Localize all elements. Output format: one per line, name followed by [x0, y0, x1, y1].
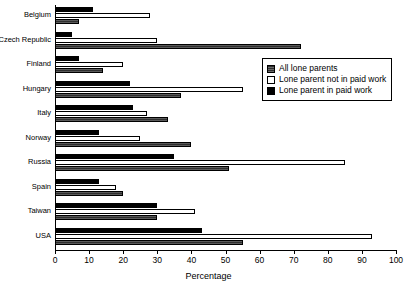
- bar-all: [55, 117, 168, 122]
- bar-inwork: [55, 56, 79, 61]
- bar-row: [55, 44, 396, 49]
- bar-group: Russia: [55, 152, 396, 177]
- y-axis-label: Norway: [26, 134, 51, 142]
- bar-row: [55, 136, 396, 141]
- x-axis-title: Percentage: [0, 271, 417, 281]
- bar-row: [55, 228, 396, 233]
- bar-row: [55, 234, 396, 239]
- bar-row: [55, 130, 396, 135]
- x-tick: [294, 250, 295, 254]
- legend-item-inwork: Lone parent in paid work: [267, 85, 386, 96]
- x-tick: [396, 250, 397, 254]
- y-axis-label: Finland: [26, 60, 51, 68]
- bar-row: [55, 32, 396, 37]
- x-tick: [123, 250, 124, 254]
- bar-row: [55, 203, 396, 208]
- bar-row: [55, 19, 396, 24]
- bar-row: [55, 142, 396, 147]
- bar-row: [55, 185, 396, 190]
- bar-all: [55, 142, 191, 147]
- bar-inwork: [55, 179, 99, 184]
- bar-inwork: [55, 154, 174, 159]
- bar-all: [55, 191, 123, 196]
- legend-label: Lone parent not in paid work: [279, 74, 386, 85]
- y-axis-label: Russia: [28, 158, 51, 166]
- bar-row: [55, 240, 396, 245]
- bar-notwork: [55, 87, 243, 92]
- x-tick: [191, 250, 192, 254]
- bar-notwork: [55, 185, 116, 190]
- x-tick-label: 100: [384, 255, 408, 265]
- bar-notwork: [55, 13, 150, 18]
- x-tick-label: 0: [43, 255, 67, 265]
- legend-item-all: All lone parents: [267, 63, 386, 74]
- bar-all: [55, 19, 79, 24]
- bar-row: [55, 166, 396, 171]
- bar-group: Taiwan: [55, 201, 396, 226]
- bar-all: [55, 93, 181, 98]
- bar-inwork: [55, 105, 133, 110]
- bar-notwork: [55, 111, 147, 116]
- bar-inwork: [55, 228, 202, 233]
- y-axis-label: USA: [36, 232, 51, 240]
- bar-row: [55, 191, 396, 196]
- bar-inwork: [55, 32, 72, 37]
- x-tick-label: 60: [248, 255, 272, 265]
- bar-row: [55, 209, 396, 214]
- bar-notwork: [55, 234, 372, 239]
- bar-notwork: [55, 136, 140, 141]
- x-tick: [55, 250, 56, 254]
- bar-all: [55, 215, 157, 220]
- bar-row: [55, 160, 396, 165]
- bar-row: [55, 7, 396, 12]
- bar-all: [55, 44, 301, 49]
- x-tick-label: 30: [145, 255, 169, 265]
- x-tick: [157, 250, 158, 254]
- bar-notwork: [55, 62, 123, 67]
- bar-row: [55, 117, 396, 122]
- x-tick-label: 50: [214, 255, 238, 265]
- x-tick-label: 80: [316, 255, 340, 265]
- bar-group: USA: [55, 226, 396, 251]
- x-tick: [260, 250, 261, 254]
- bar-row: [55, 154, 396, 159]
- bar-group: Belgium: [55, 5, 396, 30]
- bar-row: [55, 215, 396, 220]
- bar-row: [55, 105, 396, 110]
- bar-notwork: [55, 209, 195, 214]
- bar-inwork: [55, 7, 93, 12]
- y-axis-label: Hungary: [23, 85, 51, 93]
- bar-inwork: [55, 203, 157, 208]
- x-tick: [89, 250, 90, 254]
- x-tick-label: 40: [179, 255, 203, 265]
- bar-row: [55, 179, 396, 184]
- chart-legend: All lone parentsLone parent not in paid …: [262, 58, 392, 101]
- y-axis-label: Taiwan: [28, 207, 51, 215]
- bar-notwork: [55, 160, 345, 165]
- bar-notwork: [55, 38, 157, 43]
- bar-row: [55, 13, 396, 18]
- x-tick-label: 70: [282, 255, 306, 265]
- y-axis-label: Spain: [32, 183, 51, 191]
- legend-swatch-icon: [267, 76, 275, 84]
- bar-all: [55, 166, 229, 171]
- bar-inwork: [55, 81, 130, 86]
- legend-swatch-icon: [267, 65, 275, 73]
- x-tick-label: 10: [77, 255, 101, 265]
- x-tick: [328, 250, 329, 254]
- legend-item-notwork: Lone parent not in paid work: [267, 74, 386, 85]
- x-tick: [362, 250, 363, 254]
- x-tick-label: 90: [350, 255, 374, 265]
- y-axis-label: Belgium: [24, 11, 51, 19]
- legend-label: Lone parent in paid work: [279, 85, 372, 96]
- bar-group: Spain: [55, 177, 396, 202]
- bar-row: [55, 38, 396, 43]
- bar-all: [55, 68, 103, 73]
- plot-area: BelgiumCzech RepublicFinlandHungaryItaly…: [55, 5, 396, 250]
- x-tick-label: 20: [111, 255, 135, 265]
- bar-inwork: [55, 130, 99, 135]
- bar-chart: BelgiumCzech RepublicFinlandHungaryItaly…: [0, 0, 417, 292]
- x-tick: [226, 250, 227, 254]
- y-axis-label: Italy: [37, 109, 51, 117]
- legend-label: All lone parents: [279, 63, 338, 74]
